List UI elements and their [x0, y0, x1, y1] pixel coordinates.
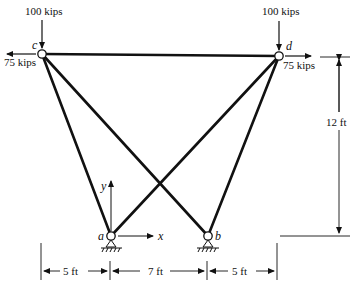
joint-d — [275, 52, 283, 60]
joint-a — [107, 232, 115, 240]
member-da — [111, 56, 279, 236]
truss-diagram: c d a b 100 kips 75 kips 100 kips 75 kip… — [0, 0, 357, 290]
dimension-label-height: 12 ft — [326, 116, 346, 128]
node-label-a: a — [98, 229, 104, 243]
dimension-label-middle: 7 ft — [148, 265, 163, 277]
load-c-vertical: 100 kips — [25, 5, 63, 48]
load-d-vertical: 100 kips — [262, 5, 300, 50]
y-axis-label: y — [100, 179, 107, 193]
svg-text:100 kips: 100 kips — [262, 5, 300, 17]
svg-text:75 kips: 75 kips — [4, 56, 36, 68]
dimension-height — [280, 57, 350, 236]
truss-members — [42, 54, 279, 236]
svg-text:75 kips: 75 kips — [283, 59, 315, 71]
member-db — [208, 56, 279, 236]
member-cb — [42, 54, 208, 236]
x-axis-label: x — [157, 229, 164, 243]
dimension-label-right: 5 ft — [232, 265, 247, 277]
member-ca — [42, 54, 111, 236]
joint-c — [38, 50, 46, 58]
dimension-label-left: 5 ft — [63, 265, 78, 277]
svg-text:100 kips: 100 kips — [25, 5, 63, 17]
load-d-horizontal: 75 kips — [283, 56, 315, 71]
node-label-c: c — [32, 38, 38, 52]
node-label-d: d — [286, 39, 293, 53]
joint-b — [204, 232, 212, 240]
load-c-horizontal: 75 kips — [4, 54, 36, 68]
pin-support-a — [101, 240, 122, 252]
node-label-b: b — [215, 229, 221, 243]
member-cd — [42, 54, 279, 56]
